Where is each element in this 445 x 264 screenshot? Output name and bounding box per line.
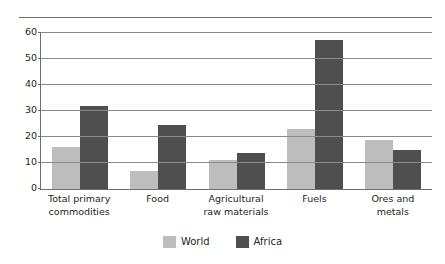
- gridline-50: 50: [41, 58, 432, 59]
- bar-chart-figure: 0102030405060 Total primarycommoditiesFo…: [0, 0, 445, 264]
- bar-groups: [41, 33, 432, 189]
- gridline-30: 30: [41, 110, 432, 111]
- y-tick-mark-0: [38, 188, 41, 189]
- y-tick-mark-50: [38, 58, 41, 59]
- legend-item-world: World: [163, 236, 210, 248]
- bar-world[interactable]: [365, 140, 393, 189]
- top-divider-rule: [19, 17, 432, 18]
- x-axis-label: Total primarycommodities: [40, 193, 118, 229]
- x-axis-label-line: commodities: [40, 206, 118, 219]
- x-axis-label-line: Ores and: [354, 193, 432, 206]
- y-tick-mark-60: [38, 32, 41, 33]
- x-axis-label-line: Total primary: [40, 193, 118, 206]
- x-axis-label-line: metals: [354, 206, 432, 219]
- x-axis-label-line: raw materials: [197, 206, 275, 219]
- x-axis-label-line: Fuels: [275, 193, 353, 206]
- bar-group: [276, 33, 354, 189]
- gridline-10: 10: [41, 162, 432, 163]
- x-axis-label-line: Food: [118, 193, 196, 206]
- bar-pair: [41, 33, 119, 189]
- africa-swatch-icon: [236, 236, 249, 248]
- y-tick-label-50: 50: [25, 53, 37, 63]
- gridline-60: 60: [41, 32, 432, 33]
- plot-area: 0102030405060: [40, 33, 432, 190]
- y-tick-label-40: 40: [25, 79, 37, 89]
- legend-label-world: World: [181, 237, 210, 247]
- x-axis-label: Ores andmetals: [354, 193, 432, 229]
- y-tick-label-30: 30: [25, 105, 37, 115]
- y-tick-label-60: 60: [25, 27, 37, 37]
- bar-group: [41, 33, 119, 189]
- x-axis-category-labels: Total primarycommoditiesFoodAgricultural…: [40, 193, 432, 229]
- x-axis-label: Fuels: [275, 193, 353, 229]
- bar-africa[interactable]: [315, 40, 343, 190]
- y-tick-mark-20: [38, 136, 41, 137]
- bar-world[interactable]: [130, 171, 158, 189]
- bar-group: [354, 33, 432, 189]
- y-tick-label-10: 10: [25, 157, 37, 167]
- y-tick-mark-10: [38, 162, 41, 163]
- x-axis-label: Agriculturalraw materials: [197, 193, 275, 229]
- bar-world[interactable]: [52, 147, 80, 189]
- gridline-40: 40: [41, 84, 432, 85]
- y-tick-label-0: 0: [31, 183, 37, 193]
- bar-africa[interactable]: [393, 150, 421, 189]
- x-axis-label: Food: [118, 193, 196, 229]
- bar-africa[interactable]: [80, 106, 108, 189]
- legend-item-africa: Africa: [236, 236, 283, 248]
- y-tick-label-20: 20: [25, 131, 37, 141]
- bar-pair: [197, 33, 275, 189]
- chart-legend: World Africa: [0, 236, 445, 248]
- bar-world[interactable]: [287, 129, 315, 189]
- bar-world[interactable]: [209, 160, 237, 189]
- gridline-0: 0: [41, 188, 432, 189]
- bar-pair: [119, 33, 197, 189]
- bar-africa[interactable]: [158, 125, 186, 189]
- bar-africa[interactable]: [237, 153, 265, 189]
- bar-pair: [276, 33, 354, 189]
- x-axis-label-line: Agricultural: [197, 193, 275, 206]
- world-swatch-icon: [163, 236, 176, 248]
- bar-pair: [354, 33, 432, 189]
- y-tick-mark-30: [38, 110, 41, 111]
- gridline-20: 20: [41, 136, 432, 137]
- bar-group: [119, 33, 197, 189]
- y-tick-mark-40: [38, 84, 41, 85]
- legend-label-africa: Africa: [254, 237, 283, 247]
- bar-group: [197, 33, 275, 189]
- plot-area-wrapper: 0102030405060: [19, 33, 432, 190]
